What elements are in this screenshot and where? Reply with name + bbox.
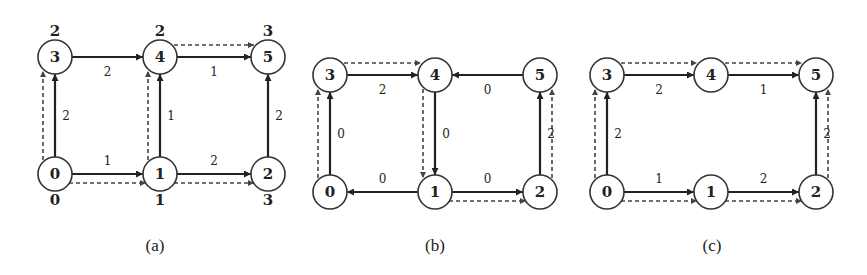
node-2: 23 bbox=[251, 157, 285, 209]
node-5: 5 bbox=[523, 58, 557, 92]
node-5: 53 bbox=[251, 22, 285, 74]
svg-text:2: 2 bbox=[263, 165, 273, 183]
edge-weight: 2 bbox=[210, 154, 218, 168]
svg-text:1: 1 bbox=[706, 183, 716, 201]
edge-weight: 2 bbox=[655, 83, 663, 97]
edge-3-4: 2 bbox=[72, 57, 143, 79]
node-2: 2 bbox=[523, 175, 557, 209]
edge-weight: 1 bbox=[167, 109, 175, 123]
svg-text:1: 1 bbox=[155, 165, 165, 183]
node-1: 11 bbox=[143, 157, 177, 209]
node-distance-label: 3 bbox=[263, 22, 273, 40]
svg-text:5: 5 bbox=[535, 66, 545, 84]
svg-text:0: 0 bbox=[325, 183, 335, 201]
edge-weight: 1 bbox=[760, 83, 768, 97]
svg-text:4: 4 bbox=[430, 66, 440, 84]
node-distance-label: 2 bbox=[50, 22, 60, 40]
node-1: 1 bbox=[694, 175, 728, 209]
edge-1-2: 2 bbox=[177, 154, 251, 174]
edge-1-0: 0 bbox=[347, 172, 418, 192]
edge-4-1: 0 bbox=[435, 92, 450, 175]
caption-c: (c) bbox=[703, 236, 722, 256]
edge-3-4: 2 bbox=[624, 75, 694, 97]
edge-1-2: 0 bbox=[452, 172, 523, 192]
svg-text:3: 3 bbox=[602, 66, 612, 84]
edge-4-5: 1 bbox=[728, 75, 799, 97]
edge-1-2: 2 bbox=[728, 172, 799, 192]
svg-text:0: 0 bbox=[602, 183, 612, 201]
node-1: 1 bbox=[418, 175, 452, 209]
edge-weight: 2 bbox=[760, 172, 768, 186]
node-2: 2 bbox=[799, 175, 833, 209]
edge-weight: 2 bbox=[104, 65, 112, 79]
svg-text:4: 4 bbox=[155, 48, 165, 66]
edge-4-5: 1 bbox=[177, 57, 251, 79]
edge-weight: 0 bbox=[379, 172, 387, 186]
node-4: 4 bbox=[418, 58, 452, 92]
graph-diagram-canvas: 1221221001123324253000022001234512222101… bbox=[0, 0, 867, 275]
edge-weight: 0 bbox=[442, 127, 450, 141]
edge-weight: 0 bbox=[337, 127, 345, 141]
node-distance-label: 1 bbox=[155, 191, 165, 209]
edge-weight: 1 bbox=[104, 154, 112, 168]
edge-weight: 0 bbox=[484, 172, 492, 186]
node-4: 4 bbox=[694, 58, 728, 92]
node-4: 42 bbox=[143, 22, 177, 74]
svg-text:4: 4 bbox=[706, 66, 716, 84]
edge-0-3: 0 bbox=[330, 92, 345, 175]
edge-weight: 2 bbox=[62, 109, 70, 123]
svg-text:5: 5 bbox=[263, 48, 273, 66]
panel-b: 0000220012345 bbox=[313, 58, 557, 209]
svg-text:0: 0 bbox=[50, 165, 60, 183]
svg-text:2: 2 bbox=[535, 183, 545, 201]
node-3: 3 bbox=[590, 58, 624, 92]
panel-a: 1221221001123324253 bbox=[38, 22, 285, 209]
svg-text:3: 3 bbox=[50, 48, 60, 66]
node-3: 3 bbox=[313, 58, 347, 92]
edge-3-4: 2 bbox=[347, 75, 418, 97]
edge-1-4: 1 bbox=[160, 74, 175, 157]
panel-c: 122221012345 bbox=[590, 58, 833, 209]
svg-text:5: 5 bbox=[811, 66, 821, 84]
edge-0-3: 2 bbox=[607, 92, 622, 175]
edge-0-3: 2 bbox=[55, 74, 70, 157]
caption-b: (b) bbox=[425, 236, 445, 256]
svg-text:2: 2 bbox=[811, 183, 821, 201]
edge-weight: 1 bbox=[655, 172, 663, 186]
node-distance-label: 0 bbox=[50, 191, 60, 209]
edge-0-1: 1 bbox=[72, 154, 143, 174]
edge-weight: 0 bbox=[484, 83, 492, 97]
edge-5-4: 0 bbox=[452, 75, 523, 97]
node-distance-label: 2 bbox=[155, 22, 165, 40]
node-5: 5 bbox=[799, 58, 833, 92]
node-0: 0 bbox=[590, 175, 624, 209]
edge-weight: 1 bbox=[210, 65, 218, 79]
edge-weight: 2 bbox=[547, 127, 555, 141]
node-0: 00 bbox=[38, 157, 72, 209]
edge-weight: 2 bbox=[823, 127, 831, 141]
edge-weight: 2 bbox=[614, 127, 622, 141]
svg-text:3: 3 bbox=[325, 66, 335, 84]
node-0: 0 bbox=[313, 175, 347, 209]
edge-0-1: 1 bbox=[624, 172, 694, 192]
svg-text:1: 1 bbox=[430, 183, 440, 201]
caption-a: (a) bbox=[146, 236, 165, 256]
edge-2-5: 2 bbox=[268, 74, 283, 157]
edge-weight: 2 bbox=[379, 83, 387, 97]
edge-weight: 2 bbox=[275, 109, 283, 123]
node-3: 32 bbox=[38, 22, 72, 74]
node-distance-label: 3 bbox=[263, 191, 273, 209]
